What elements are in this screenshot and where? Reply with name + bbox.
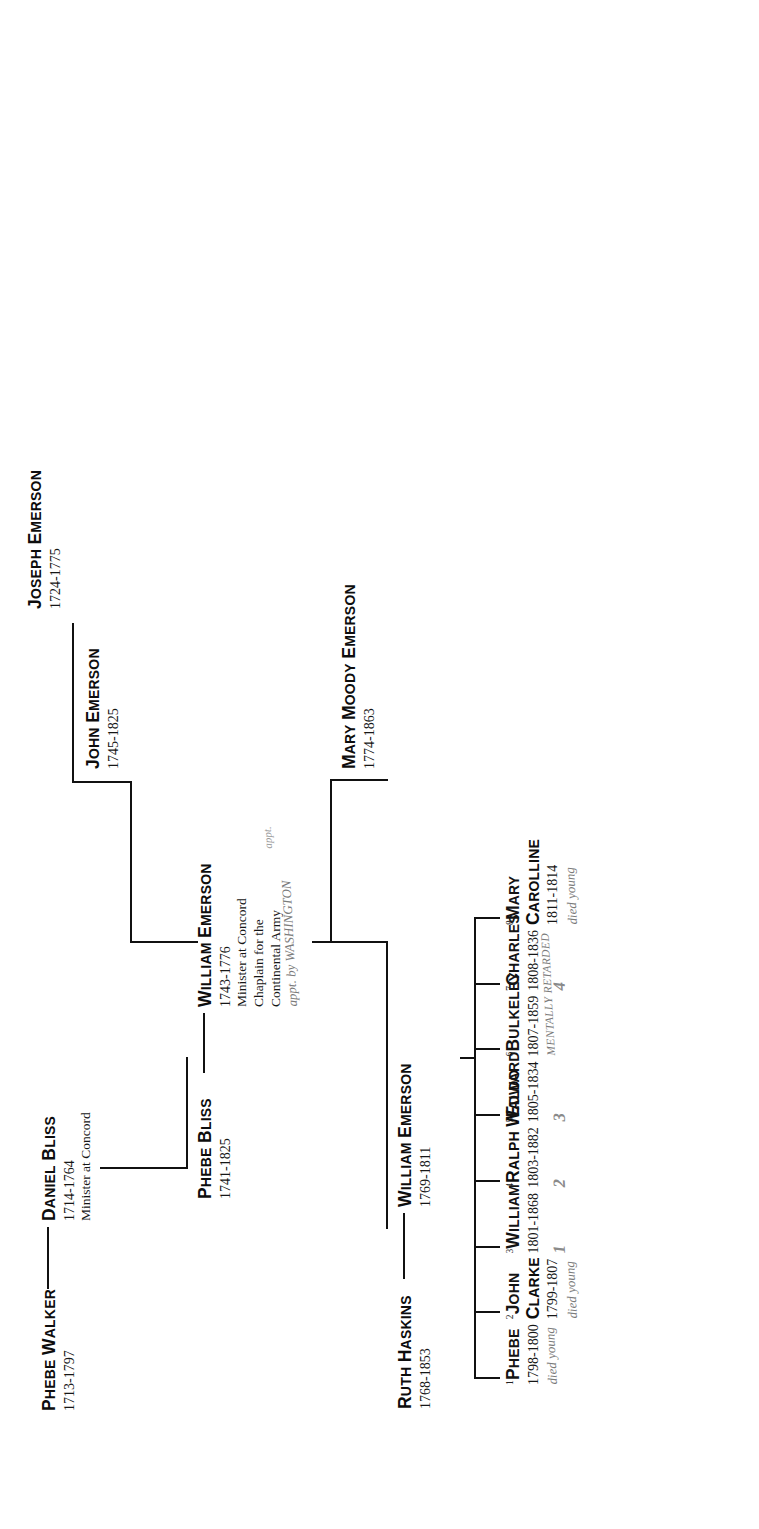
descent-line-bliss — [100, 1167, 188, 1169]
child-order-8: 8 — [505, 920, 515, 925]
node-john-emerson: JOHN EMERSON 1745-1825 — [84, 648, 122, 769]
child-name-8: 8MARY — [504, 805, 524, 925]
node-mary-moody-emerson: MARY MOODY EMERSON 1774-1863 — [340, 584, 378, 769]
daniel-bliss-name: DANIEL BLISS — [40, 1112, 60, 1221]
child-connector-7 — [474, 983, 500, 985]
child-order-7: 7 — [505, 986, 515, 991]
chart-canvas-wrapper: PHEBE WALKER 1713-1797 DANIEL BLISS 1714… — [0, 0, 759, 1529]
william-emerson-1769-dates: 1769-1811 — [417, 1063, 435, 1207]
child-connector-3 — [474, 1246, 500, 1248]
william-emerson-1769-name: WILLIAM EMERSON — [396, 1063, 416, 1207]
phebe-bliss-dates: 1741-1825 — [217, 1098, 235, 1199]
william-emerson-1743-dates: 1743-1776 — [217, 863, 235, 1007]
child-connector-5 — [474, 1114, 500, 1116]
joseph-emerson-name: JOSEPH EMERSON — [26, 470, 46, 609]
phebe-bliss-name: PHEBE BLISS — [196, 1098, 216, 1199]
child-connector-6 — [474, 1048, 500, 1050]
genealogy-chart: PHEBE WALKER 1713-1797 DANIEL BLISS 1714… — [0, 0, 759, 1529]
marriage-line-walker-bliss — [47, 1227, 49, 1289]
ruth-haskins-name: RUTH HASKINS — [396, 1295, 416, 1409]
node-phebe-bliss: PHEBE BLISS 1741-1825 — [196, 1098, 234, 1199]
child-order-1: 1 — [505, 1380, 515, 1385]
node-child-8: 8MARYCAROLLINE1811-1814died young — [504, 805, 580, 925]
node-phebe-walker: PHEBE WALKER 1713-1797 — [40, 1289, 78, 1411]
child-order-5: 5 — [505, 1117, 515, 1122]
child-name2-8: CAROLLINE — [524, 805, 544, 925]
descent-line-mary-moody — [330, 779, 388, 781]
child-connector-4 — [474, 1180, 500, 1182]
node-joseph-emerson: JOSEPH EMERSON 1724-1775 — [26, 470, 64, 609]
child-connector-1 — [474, 1377, 500, 1379]
ruth-haskins-dates: 1768-1853 — [417, 1295, 435, 1409]
marriage-line-haskins-emerson — [403, 1213, 405, 1279]
john-emerson-dates: 1745-1825 — [105, 648, 123, 769]
mary-moody-emerson-dates: 1774-1863 — [361, 584, 379, 769]
parent-bar-john-emerson — [130, 781, 132, 943]
parent-bar-joseph-emerson — [72, 623, 74, 783]
ascent-line-william-1743 — [130, 941, 198, 943]
daniel-bliss-note: Minister at Concord — [78, 1112, 95, 1221]
node-ruth-haskins: RUTH HASKINS 1768-1853 — [396, 1295, 434, 1409]
william-emerson-1743-note-1: Minister at Concord — [234, 863, 251, 1007]
marriage-line-bliss-emerson — [203, 1013, 205, 1073]
sibling-bar-mary-moody — [330, 779, 332, 943]
phebe-walker-name: PHEBE WALKER — [40, 1289, 60, 1411]
phebe-walker-dates: 1713-1797 — [61, 1289, 79, 1411]
handwritten-appt-small: appt. — [261, 826, 275, 849]
node-daniel-bliss: DANIEL BLISS 1714-1764 Minister at Conco… — [40, 1112, 95, 1221]
mary-moody-emerson-name: MARY MOODY EMERSON — [340, 584, 360, 769]
william-emerson-1743-name: WILLIAM EMERSON — [196, 863, 216, 1007]
child-connector-8 — [474, 917, 500, 919]
william-emerson-1743-note-2: Chaplain for the — [251, 863, 268, 1007]
children-spine — [474, 919, 476, 1379]
descent-line-emerson-gen2 — [312, 941, 388, 943]
child-order-4: 4 — [505, 1183, 515, 1188]
john-emerson-name: JOHN EMERSON — [84, 648, 104, 769]
child-order-6: 6 — [505, 1051, 515, 1056]
daniel-bliss-dates: 1714-1764 — [61, 1112, 79, 1221]
child-order-3: 3 — [505, 1249, 515, 1254]
child-connector-2 — [474, 1311, 500, 1313]
child-order-2: 2 — [505, 1314, 515, 1319]
node-william-emerson-1743: WILLIAM EMERSON 1743-1776 Minister at Co… — [196, 863, 301, 1007]
sibling-bar-gen3 — [386, 941, 388, 1229]
ascent-line-john-emerson — [72, 781, 132, 783]
child-bar-phebe-bliss — [186, 1057, 188, 1169]
joseph-emerson-dates: 1724-1775 — [47, 470, 65, 609]
node-william-emerson-1769: WILLIAM EMERSON 1769-1811 — [396, 1063, 434, 1207]
